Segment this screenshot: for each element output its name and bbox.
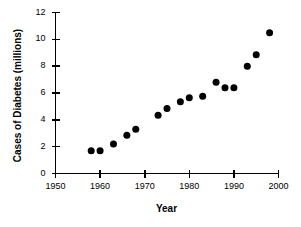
x-axis-tick-label: 1960 <box>83 181 117 191</box>
data-point <box>253 51 260 58</box>
y-axis-title: Cases of Diabetes (millions) <box>12 16 23 176</box>
data-point <box>155 112 162 119</box>
data-point <box>244 63 251 70</box>
x-axis-tick-label: 2000 <box>262 181 296 191</box>
diabetes-scatter-chart: Cases of Diabetes (millions) Year 195019… <box>0 0 301 227</box>
y-axis-tick-label: 6 <box>24 87 46 97</box>
data-point <box>97 147 104 154</box>
y-axis-tick-label: 2 <box>24 141 46 151</box>
data-point <box>186 94 193 101</box>
y-axis-tick-label: 4 <box>24 114 46 124</box>
x-axis-tick-label: 1970 <box>128 181 162 191</box>
data-point <box>88 147 95 154</box>
data-point <box>230 84 237 91</box>
x-axis-tick-label: 1990 <box>217 181 251 191</box>
data-point <box>266 29 273 36</box>
x-axis-tick-label: 1950 <box>39 181 73 191</box>
y-axis-tick-label: 10 <box>24 33 46 43</box>
y-axis-tick-label: 8 <box>24 60 46 70</box>
x-axis-tick-label: 1980 <box>172 181 206 191</box>
data-point <box>177 98 184 105</box>
data-point <box>110 140 117 147</box>
x-axis-title: Year <box>55 203 278 214</box>
data-point <box>213 79 220 86</box>
data-point <box>221 84 228 91</box>
data-point <box>123 132 130 139</box>
data-point <box>132 126 139 133</box>
data-point <box>164 105 171 112</box>
y-axis-tick-label: 12 <box>24 7 46 17</box>
data-point <box>199 93 206 100</box>
y-axis-tick-label: 0 <box>24 168 46 178</box>
